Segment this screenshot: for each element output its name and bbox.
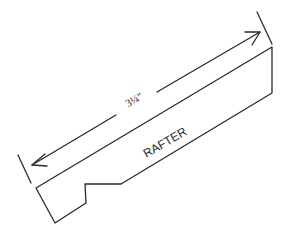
right-extension-line [257, 12, 272, 44]
dimension-line-right [157, 32, 260, 92]
rafter-diagram: 3¼″ RAFTER [0, 0, 287, 239]
rafter-outline [36, 47, 272, 223]
dimension-line-left [32, 115, 116, 165]
rafter-label: RAFTER [141, 124, 190, 160]
left-extension-line [18, 155, 31, 183]
dimension-label: 3¼″ [123, 90, 145, 110]
